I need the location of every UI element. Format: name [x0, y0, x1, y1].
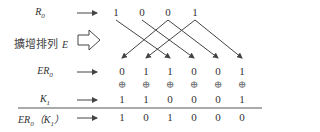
er0-bit: 0	[116, 65, 128, 77]
mapping-arrow	[142, 20, 194, 58]
xor-icon: ⊕	[188, 79, 200, 90]
xor-icon: ⊕	[116, 79, 128, 90]
er0-bit: 0	[188, 65, 200, 77]
mapping-arrow	[116, 20, 170, 58]
er0-bit: 1	[236, 65, 248, 77]
er0-bit: 1	[164, 65, 176, 77]
k1-bit: 1	[236, 93, 248, 105]
k1-bit: 1	[140, 93, 152, 105]
mapping-arrow	[195, 20, 242, 58]
mapping-arrow	[146, 20, 195, 58]
mapping-arrow	[168, 20, 218, 58]
r0-bit: 1	[189, 6, 201, 18]
r0-bit: 0	[162, 6, 174, 18]
result-bit: 0	[236, 111, 248, 123]
result-bit: 0	[188, 111, 200, 123]
xor-icon: ⊕	[140, 79, 152, 90]
k1-bit: 1	[116, 93, 128, 105]
result-bit: 1	[164, 111, 176, 123]
result-bit: 0	[140, 111, 152, 123]
r0-bit: 1	[110, 6, 122, 18]
k1-bit: 0	[188, 93, 200, 105]
er0-bit: 1	[140, 65, 152, 77]
result-bit: 1	[116, 111, 128, 123]
mapping-arrows	[116, 20, 242, 58]
er0-bit: 0	[212, 65, 224, 77]
r0-bit: 0	[136, 6, 148, 18]
result-bit: 0	[212, 111, 224, 123]
k1-bit: 0	[212, 93, 224, 105]
expansion-arrow-icon	[78, 30, 100, 50]
k1-bit: 0	[164, 93, 176, 105]
xor-icon: ⊕	[164, 79, 176, 90]
xor-icon: ⊕	[212, 79, 224, 90]
xor-icon: ⊕	[236, 79, 248, 90]
